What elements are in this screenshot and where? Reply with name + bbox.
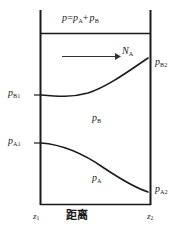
pb-curve	[41, 58, 148, 96]
total-pressure-equation: p=pA+ pB	[62, 13, 99, 23]
pa1-sub: A1	[13, 140, 21, 147]
pb2-label: pB2	[155, 57, 167, 67]
pb-region-sub: B	[97, 117, 101, 124]
flux-arrow-head	[115, 53, 121, 60]
z1-sub: 1	[37, 215, 40, 221]
pa-region-label: pA	[92, 173, 101, 183]
pb-region-label: pB	[92, 113, 101, 123]
flux-label: NA	[122, 46, 133, 56]
z2-sub: 2	[151, 215, 154, 221]
pa2-sub: A2	[160, 188, 168, 195]
flux-label-base: N	[122, 45, 129, 56]
equation-plus: +	[83, 12, 89, 23]
pb1-sub: B1	[13, 92, 20, 99]
pb2-sub: B2	[160, 61, 167, 68]
flux-label-sub: A	[129, 50, 133, 57]
pa-region-sub: A	[97, 177, 101, 184]
pa2-label: pA2	[155, 184, 168, 194]
pa1-label: pA1	[8, 136, 21, 146]
z2-base: z	[147, 211, 151, 221]
equation-term1-sub: A	[78, 17, 82, 24]
equation-term2-sub: B	[95, 17, 99, 24]
z1-tick-label: z1	[33, 212, 39, 221]
pb1-label: pB1	[8, 88, 20, 98]
z2-tick-label: z2	[147, 212, 153, 221]
z1-base: z	[33, 211, 37, 221]
x-axis-title: 距离	[66, 210, 88, 221]
pa-curve	[41, 143, 148, 192]
diffusion-diagram: p=pA+ pB NA pB1 pA1 pB2 pA2 pB pA z1 z2 …	[0, 0, 185, 236]
